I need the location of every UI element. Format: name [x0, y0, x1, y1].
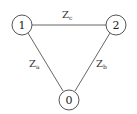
edge-label-zc: Zc — [62, 9, 73, 21]
edge-2-0 — [75, 33, 110, 91]
node-0-label: 0 — [66, 94, 73, 107]
node-2-label: 2 — [113, 19, 120, 32]
edge-label-za: Za — [29, 58, 40, 70]
node-1: 1 — [12, 15, 32, 35]
node-1-label: 1 — [19, 19, 26, 32]
edge-label-zb: Zb — [96, 58, 107, 70]
node-2: 2 — [106, 15, 126, 35]
node-0: 0 — [59, 90, 79, 110]
delta-network-diagram: Zc Za Zb 1 2 0 — [0, 0, 137, 114]
